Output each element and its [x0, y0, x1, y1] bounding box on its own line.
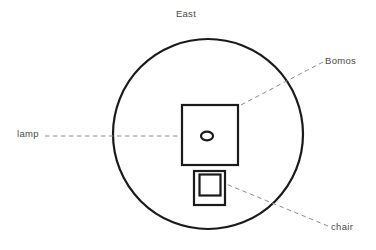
leader-line-chair: [226, 184, 328, 226]
annotation-label-chair: chair: [331, 221, 353, 233]
chair-inner-square: [200, 175, 221, 196]
direction-label-east: East: [176, 8, 196, 20]
annotation-label-lamp: lamp: [17, 128, 39, 140]
leader-line-bomos: [239, 62, 323, 106]
diagram-canvas: [0, 0, 376, 250]
lamp-oval: [201, 132, 213, 141]
floor-plan-diagram: East Bomos lamp chair: [0, 0, 376, 250]
annotation-label-bomos: Bomos: [325, 55, 356, 67]
